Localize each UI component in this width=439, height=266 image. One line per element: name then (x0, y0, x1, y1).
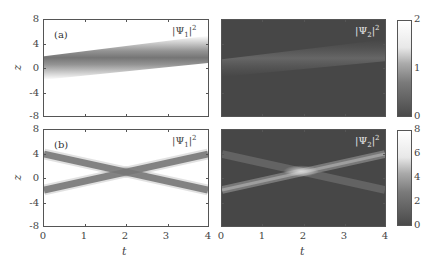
tick-mark (206, 68, 209, 69)
tick-mark (206, 203, 209, 204)
tick-mark (168, 114, 169, 117)
tick-mark (126, 224, 127, 227)
cbar-b-tick-2: 2 (414, 196, 420, 206)
xtick-bl-2: 2 (119, 231, 131, 241)
tick-mark (168, 129, 169, 132)
tick-mark (345, 19, 346, 22)
tick-mark (383, 154, 386, 155)
xtick-br-4: 4 (379, 231, 391, 241)
x-axis-title-left: t (122, 245, 126, 258)
ytick-a-4: 4 (25, 39, 39, 49)
tick-mark (345, 129, 346, 132)
ytick-a-m4: -4 (25, 88, 39, 98)
tick-mark (221, 93, 224, 94)
tick-mark (262, 129, 263, 132)
psi1-a-field-label: |Ψ1|2 (172, 24, 196, 39)
y-axis-title-a: z (11, 65, 24, 71)
tick-mark (43, 93, 46, 94)
tick-mark (221, 68, 224, 69)
tick-mark (206, 154, 209, 155)
tick-mark (43, 154, 46, 155)
colorbar-b (397, 130, 412, 226)
xtick-br-2: 2 (297, 231, 309, 241)
tick-mark (85, 129, 86, 132)
tick-mark (221, 154, 224, 155)
tick-mark (43, 203, 46, 204)
tick-mark (383, 178, 386, 179)
xtick-bl-0: 0 (37, 231, 49, 241)
cbar-b-tick-6: 6 (414, 148, 420, 158)
tick-mark (168, 19, 169, 22)
tick-mark (221, 178, 224, 179)
colorbar-a (397, 20, 412, 117)
y-axis-title-b: z (11, 175, 24, 181)
ytick-b-0: 0 (25, 173, 39, 183)
tick-mark (262, 114, 263, 117)
tick-mark (43, 44, 46, 45)
tick-mark (85, 19, 86, 22)
psi2-b-field-label: |Ψ2|2 (355, 134, 379, 149)
cbar-b-tick-8: 8 (414, 124, 420, 134)
xtick-bl-3: 3 (160, 231, 172, 241)
tick-mark (221, 203, 224, 204)
tick-mark (43, 68, 46, 69)
ytick-b-4: 4 (25, 149, 39, 159)
tick-mark (304, 114, 305, 117)
ytick-a-m8: -8 (25, 111, 39, 121)
tick-mark (304, 224, 305, 227)
xtick-bl-1: 1 (78, 231, 90, 241)
tick-mark (206, 44, 209, 45)
x-axis-title-right: t (300, 245, 304, 258)
cbar-a-tick-0: 0 (414, 111, 420, 121)
cbar-b-tick-0: 0 (414, 220, 420, 230)
tick-mark (206, 178, 209, 179)
tick-mark (126, 114, 127, 117)
tick-mark (126, 129, 127, 132)
xtick-br-1: 1 (256, 231, 268, 241)
panel-a-label: (a) (54, 29, 68, 40)
ytick-b-m8: -8 (25, 221, 39, 231)
tick-mark (206, 93, 209, 94)
tick-mark (383, 93, 386, 94)
ytick-a-0: 0 (25, 63, 39, 73)
tick-mark (262, 19, 263, 22)
tick-mark (85, 224, 86, 227)
tick-mark (304, 129, 305, 132)
tick-mark (383, 44, 386, 45)
ytick-b-m4: -4 (25, 198, 39, 208)
tick-mark (383, 203, 386, 204)
tick-mark (383, 68, 386, 69)
ytick-b-8: 8 (25, 124, 39, 134)
tick-mark (221, 44, 224, 45)
psi1-b-field-label: |Ψ1|2 (172, 134, 196, 149)
tick-mark (126, 19, 127, 22)
tick-mark (345, 114, 346, 117)
xtick-br-0: 0 (215, 231, 227, 241)
psi2-a-field-label: |Ψ2|2 (355, 24, 379, 39)
xtick-bl-4: 4 (202, 231, 214, 241)
panel-b-label: (b) (54, 139, 68, 150)
tick-mark (304, 19, 305, 22)
tick-mark (168, 224, 169, 227)
cbar-a-tick-2: 2 (414, 14, 420, 24)
cbar-a-tick-1: 1 (414, 63, 420, 73)
ytick-a-8: 8 (25, 14, 39, 24)
tick-mark (85, 114, 86, 117)
cbar-b-tick-4: 4 (414, 172, 420, 182)
xtick-br-3: 3 (338, 231, 350, 241)
tick-mark (262, 224, 263, 227)
tick-mark (43, 178, 46, 179)
tick-mark (345, 224, 346, 227)
